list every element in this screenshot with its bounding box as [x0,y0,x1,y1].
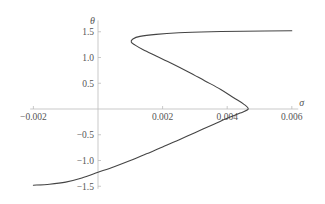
x-axis-label: σ [299,97,305,108]
axes [30,20,298,188]
y-axis-label: θ [90,15,95,26]
y-tick-label: 1.5 [82,27,94,37]
x-tick-label: 0.002 [152,112,174,122]
tick-labels: −0.0020.0020.0040.0061.51.00.5−0.5−1.0−1… [20,27,303,192]
y-tick-label: −1.0 [77,156,94,166]
y-tick-label: −1.5 [77,182,94,192]
y-tick-label: −0.5 [77,130,94,140]
x-tick-label: 0.004 [217,112,239,122]
y-tick-label: 1.0 [82,53,94,63]
chart: −0.0020.0020.0040.0061.51.00.5−0.5−1.0−1… [0,0,325,204]
x-tick-label: 0.006 [281,112,303,122]
y-tick-label: 0.5 [82,79,94,89]
x-tick-label: −0.002 [20,112,47,122]
